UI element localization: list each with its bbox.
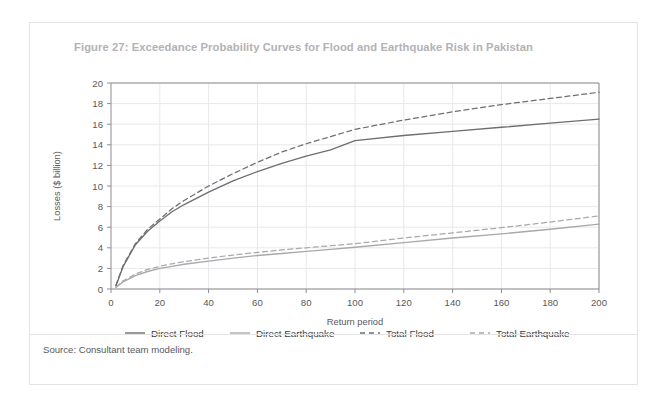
y-tick-label: 20 [92,78,103,89]
figure-card: Figure 27: Exceedance Probability Curves… [29,22,638,385]
x-axis-label: Return period [327,317,383,327]
y-tick-label: 18 [92,98,103,109]
exceedance-probability-chart: 02468101214161820 0204060801001201401601… [30,23,639,386]
series-line-direct-earthquake [116,224,599,287]
y-tick-label: 0 [98,284,103,295]
legend-item-total-flood: Total Flood [360,328,434,339]
x-axis-ticks: 020406080100120140160180200 [108,289,607,308]
source-divider [30,334,637,335]
x-tick-label: 200 [591,297,607,308]
x-tick-label: 180 [542,297,558,308]
legend-label: Direct Flood [151,328,204,339]
x-tick-label: 20 [154,297,165,308]
y-tick-label: 8 [98,201,103,212]
legend-label: Total Flood [386,328,434,339]
legend-item-direct-earthquake: Direct Earthquake [230,328,335,339]
chart-gridlines [111,83,599,289]
legend-item-total-earthquake: Total Earthquake [470,328,570,339]
source-note: Source: Consultant team modeling. [43,344,193,355]
x-tick-label: 60 [252,297,263,308]
y-axis-label: Losses ($ billion) [52,151,62,221]
legend-label: Direct Earthquake [256,328,335,339]
y-tick-label: 6 [98,222,103,233]
x-tick-label: 40 [203,297,214,308]
x-tick-label: 0 [108,297,113,308]
x-tick-label: 100 [347,297,363,308]
x-tick-label: 160 [493,297,509,308]
series-line-total-flood [116,92,599,285]
chart-plot-area: 02468101214161820 0204060801001201401601… [30,23,639,386]
x-tick-label: 80 [301,297,312,308]
series-line-total-earthquake [116,216,599,287]
chart-legend: Direct FloodDirect EarthquakeTotal Flood… [125,328,570,339]
y-tick-label: 10 [92,181,103,192]
x-tick-label: 120 [396,297,412,308]
y-tick-label: 2 [98,263,103,274]
legend-item-direct-flood: Direct Flood [125,328,204,339]
legend-label: Total Earthquake [496,328,570,339]
y-tick-label: 14 [92,139,103,150]
y-axis-ticks: 02468101214161820 [92,78,111,295]
chart-series-curves [116,92,599,287]
x-tick-label: 140 [445,297,461,308]
y-tick-label: 16 [92,119,103,130]
y-tick-label: 4 [98,242,104,253]
y-tick-label: 12 [92,160,103,171]
